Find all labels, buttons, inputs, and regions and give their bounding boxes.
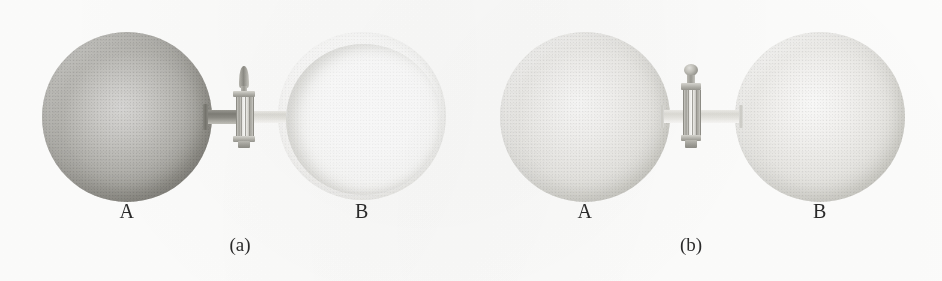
stopcock-open[interactable] xyxy=(679,64,703,148)
stopcock-foot xyxy=(685,140,697,148)
stopcock-top-cap xyxy=(681,83,701,90)
panel-b: A B (b) xyxy=(471,0,942,281)
sphere-stipple-texture xyxy=(735,32,905,202)
stopcock-rib xyxy=(688,90,689,136)
stopcock-handle-pointed-finial-icon[interactable] xyxy=(239,66,249,88)
tube-flange-left xyxy=(660,105,664,128)
stopcock-rib xyxy=(696,90,697,136)
stopcock-rib xyxy=(245,97,246,137)
vessel-label-b: B xyxy=(800,200,840,223)
vessel-label-b: B xyxy=(342,200,382,223)
sphere-stipple-texture xyxy=(278,32,446,200)
figure-joule-expansion: A B (a) xyxy=(0,0,942,281)
panel-caption-b: (b) xyxy=(656,234,726,256)
stopcock-rib xyxy=(249,97,250,137)
stopcock-closed[interactable] xyxy=(232,66,256,148)
tube-flange-right xyxy=(739,105,743,128)
stopcock-barrel xyxy=(236,97,254,137)
vessel-label-a: A xyxy=(565,200,605,223)
vessel-b-sphere-vacuum xyxy=(278,32,446,200)
vessel-label-a: A xyxy=(107,200,147,223)
stopcock-foot xyxy=(238,141,250,148)
stopcock-rib xyxy=(241,97,242,137)
panel-caption-a: (a) xyxy=(205,234,275,256)
stopcock-rib xyxy=(692,90,693,136)
tube-segment-right xyxy=(699,110,741,123)
vessel-a-sphere-gas xyxy=(42,32,212,202)
stopcock-barrel xyxy=(683,90,701,136)
tube-flange-left xyxy=(203,104,208,130)
vessel-b-sphere-gas xyxy=(735,32,905,202)
sphere-stipple-texture xyxy=(500,32,670,202)
sphere-stipple-texture xyxy=(42,32,212,202)
panel-a: A B (a) xyxy=(0,0,471,281)
vessel-a-sphere-gas xyxy=(500,32,670,202)
